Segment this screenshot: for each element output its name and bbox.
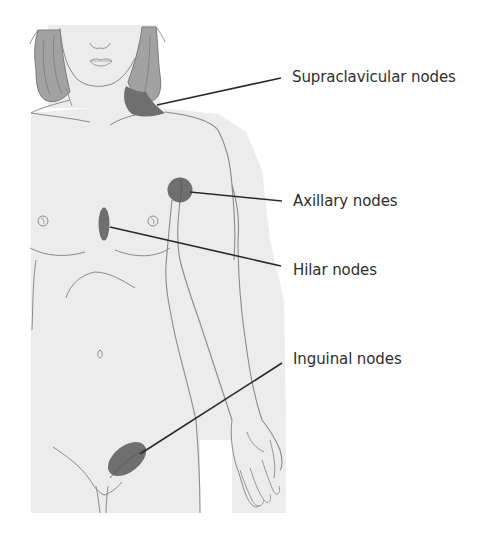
label-axillary-nodes: Axillary nodes — [293, 192, 398, 210]
lymph-node-diagram: Supraclavicular nodes Axillary nodes Hil… — [0, 0, 490, 538]
hilar-node — [99, 208, 110, 241]
label-supraclavicular-nodes: Supraclavicular nodes — [292, 68, 456, 86]
axillary-node — [168, 178, 193, 203]
body-figure — [30, 25, 286, 513]
label-inguinal-nodes: Inguinal nodes — [293, 350, 402, 368]
label-hilar-nodes: Hilar nodes — [293, 261, 377, 279]
leader-line-supraclavicular — [157, 78, 281, 105]
